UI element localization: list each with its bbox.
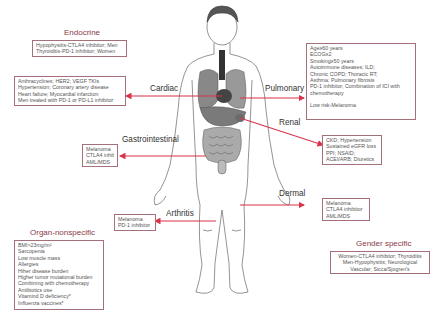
organ-nonspecific-line: Combining with chemotherapy [18,280,100,286]
dermal-label: Dermal [279,189,305,198]
arthritis-line: PD-1 inhibitor [118,222,152,228]
cardiac-box: Anthracyclines; HER2; VEGF TKIs Hyperten… [14,76,126,106]
renal-box: CKD; Hypertension Sustained eGFR loss PP… [322,135,382,165]
dermal-line: CTLA4 inhibitor [326,206,366,212]
pulmonary-box: Age≥60 years ECOG≥2 Smoking≥50 years Aut… [306,43,416,120]
pulmonary-label: Pulmonary [265,84,304,93]
arthritis-label: Arthritis [166,209,194,218]
organ-nonspecific-title: Organ-nonspecific [30,228,95,237]
endocrine-line: Thyroiditis-PD-1 inhibitor; Women [36,48,123,54]
gastrointestinal-box: Melanoma CTLA4 inhibitor AML/MDS [82,144,118,167]
endocrine-title: Endocrine [64,28,100,37]
endocrine-box: Hypophysitis-CTLA4 inhibitor; Men Thyroi… [32,40,127,57]
pulmonary-line: Low risk-Melanoma [310,102,412,108]
cardiac-label: Cardiac [150,84,178,93]
cardiac-line: Men treated with PD-1 or PD-L1 inhibitor [18,97,122,103]
gender-specific-box: Women-CTLA4 inhibitor; Thyroiditis Men-H… [330,251,430,274]
gi-line: AML/MDS [86,159,114,165]
renal-label: Renal [279,118,300,127]
dermal-box: Melanoma CTLA4 inhibitor AML/MDS [322,198,370,221]
dermal-line: AML/MDS [326,213,366,219]
renal-line: ACEI/ARB; Diuretics [326,156,378,162]
organs [198,50,246,174]
gastrointestinal-label: Gastrointestinal [122,135,179,144]
gender-specific-title: Gender specific [356,239,412,248]
gender-specific-line: Vascular; Sicca/Sjogren's [334,266,426,272]
cardiac-line: Hypertension; Coronary artery disease [18,84,122,90]
organ-nonspecific-box: BMI>23mg/m² Sarcopenia Low muscle mass A… [14,240,104,310]
gender-specific-line: Men-Hypophysitis; Neurological [334,259,426,265]
gi-line: CTLA4 inhibitor [86,152,114,158]
arthritis-box: Melanoma PD-1 inhibitor [114,214,156,231]
pulmonary-line: PD-1 inhibitor; Combination of ICI with [310,83,412,89]
organ-nonspecific-line: Influenza vaccines* [18,300,100,306]
renal-line: Sustained eGFR loss [326,143,378,149]
